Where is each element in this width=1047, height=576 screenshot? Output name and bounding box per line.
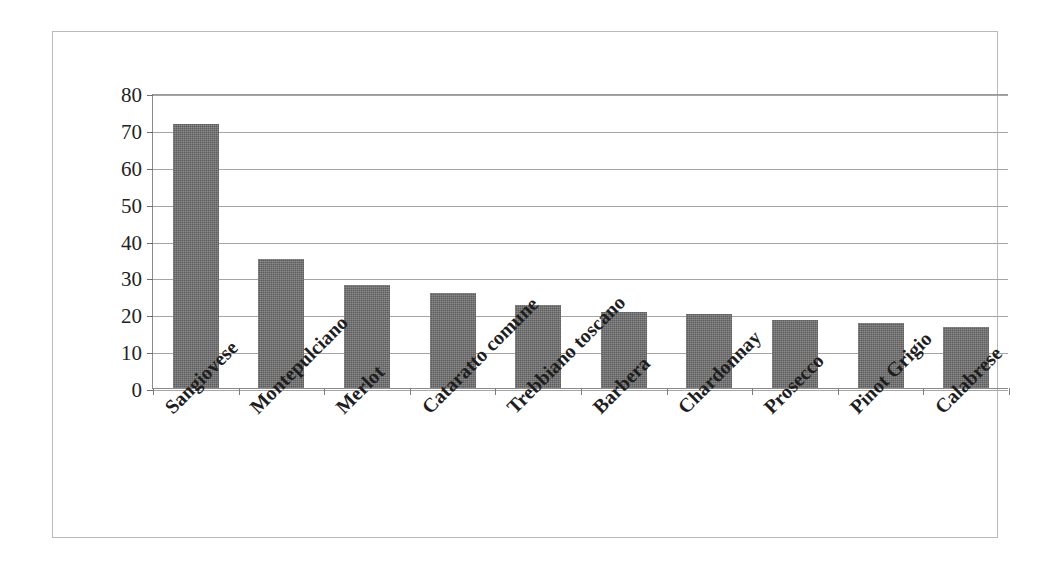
y-tick-label: 80: [121, 85, 142, 106]
bar: [173, 124, 219, 388]
y-tick-label: 70: [121, 121, 142, 142]
y-tick-label: 50: [121, 195, 142, 216]
y-tick-label: 10: [121, 343, 142, 364]
figure-frame: 80706050403020100 SangioveseMontepulcian…: [52, 31, 998, 538]
y-tick-label: 60: [121, 158, 142, 179]
y-tick-label: 20: [121, 306, 142, 327]
y-tick-label: 40: [121, 232, 142, 253]
x-axis-labels: SangioveseMontepulcianoMerlotCataratto c…: [53, 389, 1047, 559]
y-tick-label: 30: [121, 269, 142, 290]
